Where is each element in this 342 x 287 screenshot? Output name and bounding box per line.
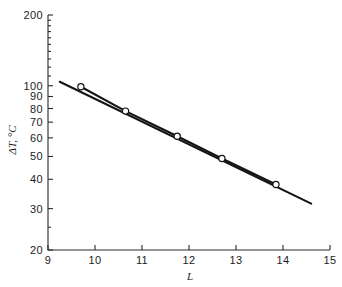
x-tick-label: 14 <box>276 254 289 266</box>
data-point-marker <box>273 181 279 187</box>
x-tick-label: 10 <box>88 254 101 266</box>
x-tick-label: 9 <box>45 254 52 266</box>
chart-figure: 2030405060708090100200 9101112131415 ΔT,… <box>0 0 342 287</box>
y-tick-label: 80 <box>30 103 43 115</box>
plot-background <box>0 0 342 287</box>
data-point-marker <box>219 155 225 161</box>
semilog-plot: 2030405060708090100200 9101112131415 ΔT,… <box>0 0 342 287</box>
y-tick-label: 200 <box>23 9 43 21</box>
y-tick-label: 50 <box>30 150 43 162</box>
y-tick-label: 60 <box>30 132 43 144</box>
x-tick-label: 15 <box>323 254 336 266</box>
y-tick-label: 20 <box>30 244 43 256</box>
y-tick-label: 100 <box>23 80 43 92</box>
x-tick-label: 12 <box>182 254 195 266</box>
data-point-marker <box>174 133 180 139</box>
y-axis-title: ΔT, °C <box>6 125 18 156</box>
y-tick-label: 70 <box>30 116 43 128</box>
x-axis-title: L <box>186 270 193 282</box>
y-tick-label: 90 <box>30 90 43 102</box>
data-point-marker <box>78 84 84 90</box>
y-tick-label: 40 <box>30 173 43 185</box>
x-tick-label: 13 <box>229 254 242 266</box>
y-tick-label: 30 <box>30 203 43 215</box>
x-tick-label: 11 <box>136 254 148 266</box>
data-point-marker <box>122 108 128 114</box>
